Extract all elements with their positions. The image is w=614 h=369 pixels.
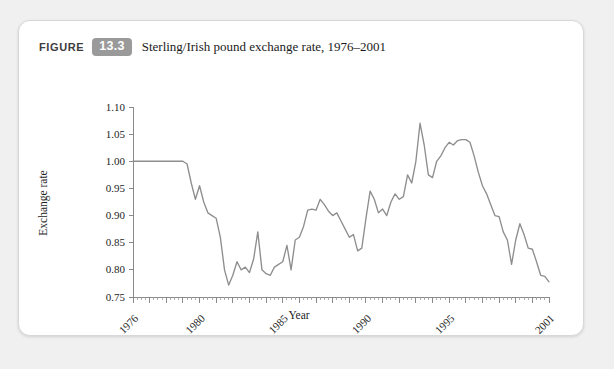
figure-number-badge: 13.3 bbox=[92, 38, 132, 56]
x-axis-title: Year bbox=[288, 309, 309, 321]
x-tick-label: 2001 bbox=[532, 312, 556, 335]
y-tick-label: 1.00 bbox=[106, 155, 126, 167]
y-axis-title: Exchange rate bbox=[37, 170, 50, 235]
y-tick-label: 0.85 bbox=[106, 236, 126, 248]
x-tick-label: 1990 bbox=[349, 312, 373, 335]
figure-card: FIGURE 13.3 Sterling/Irish pound exchang… bbox=[18, 20, 584, 336]
figure-caption: FIGURE 13.3 Sterling/Irish pound exchang… bbox=[39, 37, 386, 57]
figure-title: Sterling/Irish pound exchange rate, 1976… bbox=[142, 39, 386, 55]
x-tick-label: 1980 bbox=[183, 312, 207, 335]
y-tick-label: 0.75 bbox=[106, 291, 126, 303]
data-series-line bbox=[133, 123, 549, 285]
x-tick-label: 1995 bbox=[433, 312, 457, 335]
y-axis: 0.750.800.850.900.951.001.051.10 bbox=[106, 101, 133, 303]
x-axis: 197619801985199019952001 bbox=[116, 297, 556, 335]
y-tick-label: 1.10 bbox=[106, 101, 126, 113]
x-tick-label: 1985 bbox=[266, 312, 290, 335]
figure-label: FIGURE bbox=[39, 41, 84, 53]
y-tick-label: 0.80 bbox=[106, 263, 126, 275]
y-tick-label: 1.05 bbox=[106, 128, 126, 140]
line-chart-svg: 0.750.800.850.900.951.001.051.10 1976198… bbox=[19, 61, 585, 335]
y-tick-label: 0.90 bbox=[106, 209, 126, 221]
chart-plot-area: 0.750.800.850.900.951.001.051.10 1976198… bbox=[19, 61, 585, 335]
y-tick-label: 0.95 bbox=[106, 182, 126, 194]
x-tick-label: 1976 bbox=[116, 312, 140, 335]
exchange-rate-line bbox=[133, 123, 549, 285]
